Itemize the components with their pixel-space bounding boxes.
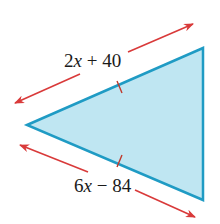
bottom-side-label: 6x − 84 [74,175,132,196]
top-arrow-right [128,24,193,52]
triangle-diagram: 2x + 40 6x − 84 [0,0,220,224]
top-side-label: 2x + 40 [64,50,121,71]
bottom-arrow-left [20,145,88,172]
top-arrow-left [15,74,80,103]
